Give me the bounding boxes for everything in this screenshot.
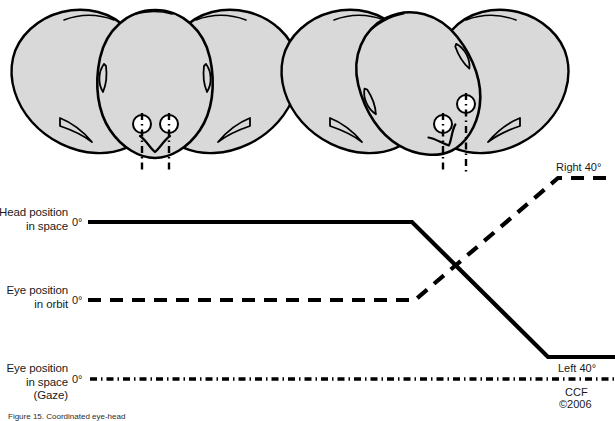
credit-year: ©2006 — [559, 398, 592, 411]
axis-label-eye-in-orbit-line1: Eye position — [7, 284, 68, 298]
head-primary-straight — [97, 10, 213, 158]
trace-eye-in-orbit — [88, 178, 615, 300]
zero-label-eye-in-orbit: 0° — [72, 294, 83, 306]
label-right-40: Right 40° — [556, 161, 601, 173]
axis-label-head-position-line1: Head position — [0, 206, 68, 220]
axis-label-head-position-line2: in space — [0, 220, 68, 234]
axis-label-eye-in-orbit-line2: in orbit — [7, 298, 68, 312]
axis-label-gaze-line1: Eye position — [7, 362, 68, 376]
credit-organization: CCF — [565, 386, 588, 399]
trace-head-position — [88, 222, 615, 357]
axis-label-gaze-line2: in space — [7, 376, 68, 390]
axis-label-eye-in-orbit: Eye position in orbit — [7, 284, 68, 311]
label-left-40: Left 40° — [558, 362, 596, 374]
diagram-head-straight — [12, 10, 299, 172]
axis-label-gaze-line3: (Gaze) — [7, 389, 68, 403]
figure-caption: Figure 15. Coordinated eye-head — [8, 412, 428, 421]
axis-label-head-position: Head position in space — [0, 206, 68, 233]
zero-label-head-position: 0° — [72, 216, 83, 228]
diagram-head-turned — [282, 0, 569, 176]
zero-label-gaze: 0° — [72, 373, 83, 385]
axis-label-gaze: Eye position in space (Gaze) — [7, 362, 68, 403]
